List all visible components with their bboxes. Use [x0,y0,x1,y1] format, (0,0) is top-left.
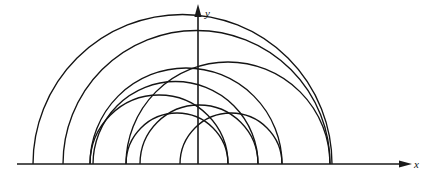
semicircle-arc [33,15,332,165]
x-axis-arrowhead [399,160,412,167]
y-axis-arrowhead [194,4,201,17]
figure-container: x y [0,0,427,181]
semicircle-figure: x y [0,0,427,181]
semicircle-arc [63,31,330,164]
x-axis-label: x [413,158,419,170]
y-axis-label: y [204,7,210,19]
arc-group [33,15,332,165]
x-axis [17,160,412,167]
semicircle-arc [93,82,258,164]
semicircle-arc [180,113,282,164]
